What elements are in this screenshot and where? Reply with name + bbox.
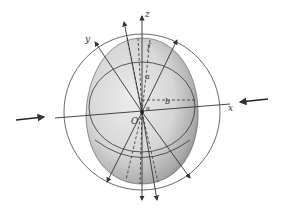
label-y: y [84, 34, 91, 44]
left-incoming-arrow [16, 117, 44, 120]
label-angle: α [146, 104, 150, 111]
label-a: a [145, 72, 150, 81]
origin-point [140, 110, 144, 114]
label-origin: O [131, 116, 139, 126]
label-b: b [165, 97, 170, 106]
label-z: z [144, 9, 150, 19]
ellipsoid-diagram: z y x O a b f α [0, 0, 281, 215]
label-x: x [228, 103, 233, 113]
right-incoming-arrow [240, 99, 268, 102]
